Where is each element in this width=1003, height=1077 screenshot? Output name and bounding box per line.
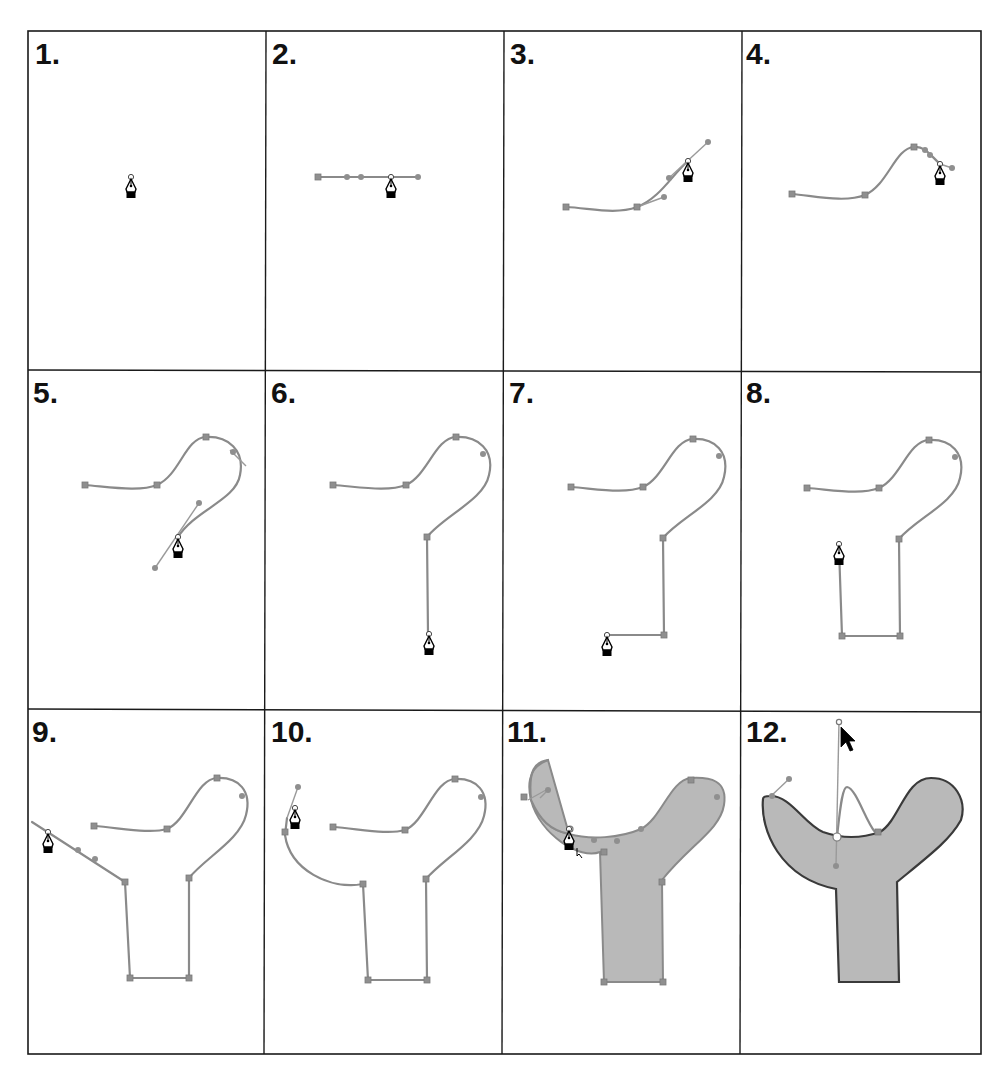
panel-3	[563, 139, 711, 211]
pen-tool-cursor-icon	[834, 541, 844, 565]
panel-label: 7.	[509, 376, 534, 409]
panel-2	[315, 174, 421, 198]
panel-5	[82, 434, 246, 571]
panel-label: 4.	[746, 37, 771, 70]
panel-1	[126, 174, 136, 198]
pen-tool-cursor-icon	[683, 158, 693, 182]
column-divider	[740, 31, 742, 1054]
panel-label: 10.	[271, 715, 313, 748]
pen-tool-step-diagram: 1. 2. 3. 4. 5. 6. 7. 8. 9. 10. 11. 12.	[0, 0, 1003, 1077]
column-divider	[502, 31, 504, 1054]
panel-10	[282, 776, 485, 983]
panel-label: 6.	[271, 376, 296, 409]
row-divider	[28, 709, 981, 712]
panel-label: 2.	[272, 37, 297, 70]
pen-tool-cursor-icon	[424, 631, 434, 655]
panel-12	[763, 719, 963, 982]
panel-9	[32, 775, 247, 981]
pen-tool-cursor-icon	[43, 829, 53, 853]
pen-tool-cursor-icon	[173, 534, 183, 558]
column-divider	[264, 31, 266, 1054]
panel-label: 8.	[746, 376, 771, 409]
panel-6	[330, 434, 490, 655]
panel-label: 9.	[32, 715, 57, 748]
row-divider	[28, 370, 981, 372]
selection-arrow-cursor-icon	[841, 727, 855, 751]
panel-label: 5.	[33, 376, 58, 409]
panel-label: 1.	[35, 37, 60, 70]
panel-4	[789, 144, 955, 199]
panel-8	[804, 437, 961, 639]
pen-tool-cursor-icon	[290, 805, 300, 829]
panel-label: 12.	[746, 715, 788, 748]
panel-label: 11.	[507, 715, 547, 748]
pen-tool-cursor-icon	[126, 174, 136, 198]
panel-label: 3.	[510, 37, 535, 70]
panel-7	[568, 436, 725, 656]
panel-11	[521, 760, 725, 985]
